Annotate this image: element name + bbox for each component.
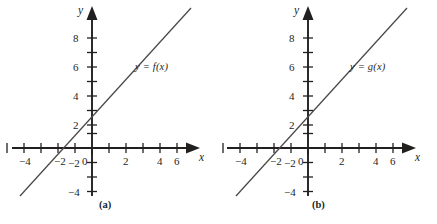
x-tick-label-6: 6 <box>390 156 396 167</box>
x-tick-label-2: 2 <box>339 156 345 167</box>
x-axis-arrow-icon <box>402 143 416 154</box>
x-tick-label-neg2: −2 <box>270 156 282 167</box>
x-tick-label-4: 4 <box>157 156 163 167</box>
panel-a-plot <box>0 0 218 224</box>
panel-caption-a: (a) <box>99 200 111 211</box>
x-axis-name: x <box>199 152 204 164</box>
y-axis-name: y <box>294 5 299 17</box>
figure-two-linear-graphs: −4 −2 0 2 4 6 8 6 4 2 −2 −4 x y y = f(x)… <box>0 0 437 224</box>
x-axis-name: x <box>415 152 420 164</box>
y-tick-label-8: 8 <box>73 33 79 44</box>
y-tick-label-4: 4 <box>289 91 295 102</box>
y-tick-label-6: 6 <box>73 62 79 73</box>
y-tick-label-8: 8 <box>289 33 295 44</box>
y-axis-name: y <box>78 5 83 17</box>
y-tick-label-neg2: −2 <box>284 158 296 169</box>
x-tick-label-zero: 0 <box>82 156 88 167</box>
panel-a: −4 −2 0 2 4 6 8 6 4 2 −2 −4 x y y = f(x)… <box>0 0 218 224</box>
panel-caption-b: (b) <box>312 200 325 211</box>
x-tick-label-neg4: −4 <box>235 156 247 167</box>
y-axis-arrow-icon <box>303 6 314 20</box>
y-tick-label-6: 6 <box>289 62 295 73</box>
y-tick-label-2: 2 <box>289 120 295 131</box>
y-tick-label-4: 4 <box>73 91 79 102</box>
y-tick-label-neg4: −4 <box>284 187 296 198</box>
x-tick-label-neg4: −4 <box>19 156 31 167</box>
curve-label-f: y = f(x) <box>135 62 168 73</box>
y-tick-label-neg2: −2 <box>68 158 80 169</box>
x-tick-label-6: 6 <box>174 156 180 167</box>
function-line <box>236 8 407 196</box>
x-tick-label-4: 4 <box>373 156 379 167</box>
x-axis-arrow-icon <box>186 143 200 154</box>
curve-label-g: y = g(x) <box>350 62 386 73</box>
function-line <box>20 8 191 196</box>
y-tick-label-neg4: −4 <box>68 187 80 198</box>
y-axis-arrow-icon <box>87 6 98 20</box>
y-tick-label-2: 2 <box>73 120 79 131</box>
x-tick-label-zero: 0 <box>298 156 304 167</box>
x-tick-label-neg2: −2 <box>54 156 66 167</box>
x-tick-label-2: 2 <box>123 156 129 167</box>
panel-b: −4 −2 0 2 4 6 8 6 4 2 −2 −4 x y y = g(x)… <box>219 0 437 224</box>
panel-b-plot <box>219 0 437 224</box>
